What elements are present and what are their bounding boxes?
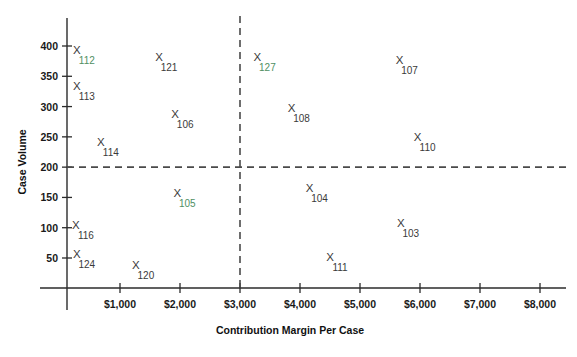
point-label: 127 — [259, 62, 276, 73]
data-point: X127 — [254, 51, 277, 73]
data-point: X121 — [155, 51, 178, 73]
data-point-group: X112X113X114X116X124X120X121X106X105X127… — [72, 44, 436, 281]
data-point: X113 — [73, 80, 95, 102]
y-tick-label: 200 — [40, 161, 58, 173]
data-point: X108 — [288, 102, 311, 124]
x-tick-label: $2,000 — [164, 298, 196, 310]
x-tick-label: $6,000 — [404, 298, 436, 310]
data-point: X107 — [396, 54, 419, 76]
data-point: X112 — [73, 44, 95, 66]
x-axis-title: Contribution Margin Per Case — [216, 324, 364, 336]
point-label: 107 — [401, 65, 418, 76]
point-label: 103 — [402, 228, 419, 239]
x-tick-group: $1,000$2,000$3,000$4,000$5,000$6,000$7,0… — [104, 283, 556, 310]
x-tick-label: $8,000 — [524, 298, 556, 310]
y-tick-label: 50 — [46, 252, 58, 264]
point-label: 124 — [78, 259, 95, 270]
point-label: 113 — [79, 91, 95, 102]
y-tick-label: 300 — [40, 101, 58, 113]
y-tick-label: 250 — [40, 131, 58, 143]
data-point: X114 — [97, 136, 119, 158]
x-tick-label: $5,000 — [344, 298, 376, 310]
point-label: 116 — [78, 230, 94, 241]
point-label: 106 — [177, 119, 194, 130]
data-point: X103 — [397, 217, 420, 239]
point-label: 108 — [293, 113, 310, 124]
y-tick-label: 400 — [40, 40, 58, 52]
scatter-chart: 50100150200250300350400 $1,000$2,000$3,0… — [0, 0, 577, 357]
point-label: 105 — [179, 198, 196, 209]
plot-area: 50100150200250300350400 $1,000$2,000$3,0… — [0, 0, 577, 357]
x-tick-label: $4,000 — [284, 298, 316, 310]
x-tick-label: $1,000 — [104, 298, 136, 310]
y-tick-label: 150 — [40, 191, 58, 203]
point-label: 110 — [420, 142, 436, 153]
y-tick-label: 350 — [40, 70, 58, 82]
data-point: X116 — [72, 219, 94, 241]
point-label: 112 — [79, 55, 95, 66]
data-point: X124 — [73, 248, 96, 270]
y-axis-title: Case Volume — [16, 129, 28, 194]
data-point: X106 — [171, 108, 194, 130]
point-label: 114 — [103, 147, 119, 158]
x-tick-label: $3,000 — [224, 298, 256, 310]
data-point: X104 — [306, 182, 329, 204]
point-label: 121 — [161, 62, 178, 73]
reference-line-group — [67, 16, 566, 288]
data-point: X105 — [173, 187, 196, 209]
point-label: 120 — [138, 270, 155, 281]
point-label: 104 — [311, 193, 328, 204]
point-label: 111 — [332, 262, 348, 273]
data-point: X111 — [326, 251, 348, 273]
y-tick-label: 100 — [40, 222, 58, 234]
x-tick-label: $7,000 — [464, 298, 496, 310]
data-point: X120 — [132, 259, 155, 281]
data-point: X110 — [414, 131, 436, 153]
